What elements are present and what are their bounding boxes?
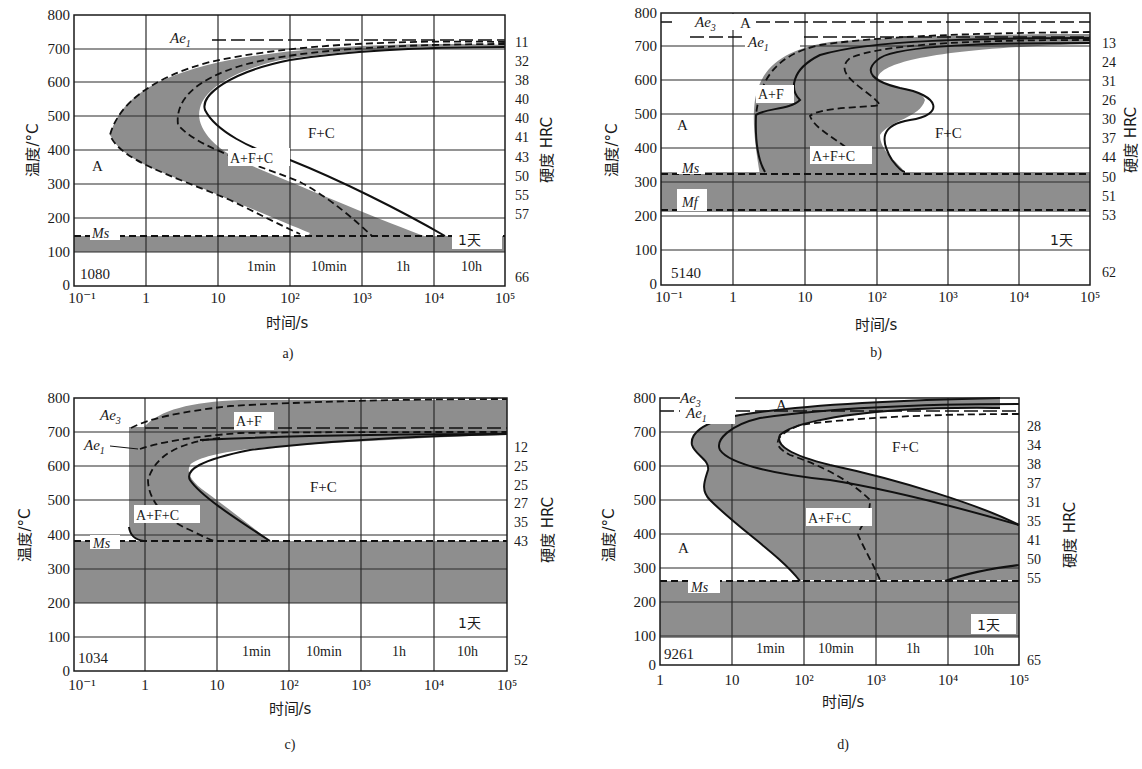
svg-text:43: 43 <box>514 534 528 549</box>
svg-text:35: 35 <box>514 515 528 530</box>
svg-text:100: 100 <box>48 244 71 260</box>
panel-b-caption: b) <box>870 345 882 361</box>
svg-text:1: 1 <box>729 289 737 305</box>
svg-text:600: 600 <box>48 458 71 474</box>
svg-text:10⁵: 10⁵ <box>497 677 517 693</box>
svg-text:10⁴: 10⁴ <box>424 290 444 306</box>
svg-text:10⁻¹: 10⁻¹ <box>655 289 682 305</box>
panel-b-right-label: 硬度 HRC <box>1122 107 1140 173</box>
panel-b-ms-label: Ms <box>681 161 700 176</box>
svg-text:11: 11 <box>515 35 528 50</box>
panel-a-ae1-label: Ae1 <box>169 30 191 49</box>
panel-a-right-label: 硬度 HRC <box>538 117 556 183</box>
svg-text:200: 200 <box>48 595 71 611</box>
svg-text:10min: 10min <box>306 644 342 659</box>
panel-c-steel-id: 1034 <box>78 650 109 666</box>
svg-text:1: 1 <box>656 672 664 688</box>
svg-text:10⁵: 10⁵ <box>495 290 515 306</box>
svg-text:40: 40 <box>515 92 529 107</box>
svg-text:1h: 1h <box>906 641 920 656</box>
svg-text:35: 35 <box>1027 514 1041 529</box>
svg-text:52: 52 <box>514 653 528 668</box>
svg-text:31: 31 <box>1027 495 1041 510</box>
svg-text:800: 800 <box>48 390 71 406</box>
svg-text:800: 800 <box>635 5 658 21</box>
panel-a-xlabel: 时间/s <box>266 314 309 332</box>
svg-text:53: 53 <box>1102 208 1116 223</box>
panel-a-hardness: 1132 3840 4041 4350 5557 66 <box>515 35 529 285</box>
panel-b-region-afc: A+F+C <box>812 149 855 164</box>
panel-a-caption: a) <box>283 346 294 362</box>
svg-text:13: 13 <box>1102 36 1116 51</box>
svg-text:10²: 10² <box>279 677 299 693</box>
svg-text:50: 50 <box>1102 170 1116 185</box>
panel-c-xlabel: 时间/s <box>269 700 312 718</box>
svg-text:28: 28 <box>1027 419 1041 434</box>
svg-text:800: 800 <box>48 7 71 23</box>
svg-text:1h: 1h <box>396 259 410 274</box>
svg-text:12: 12 <box>514 440 528 455</box>
svg-text:800: 800 <box>634 390 657 406</box>
panel-d-ms-label: Ms <box>690 580 709 595</box>
svg-text:400: 400 <box>48 527 71 543</box>
svg-text:600: 600 <box>635 72 658 88</box>
panel-c-ae1-label: Ae1 <box>83 437 105 456</box>
panel-b-xlabel: 时间/s <box>855 316 898 334</box>
svg-text:10²: 10² <box>867 289 887 305</box>
svg-text:10: 10 <box>725 672 740 688</box>
panel-b-region-af: A+F <box>758 87 784 102</box>
panel-d-region-fc: F+C <box>892 439 919 455</box>
svg-text:10⁴: 10⁴ <box>1009 289 1029 305</box>
figure-canvas: Ae1 Ms A A+F+C F+C 1天 1080 1min 10min 1h… <box>0 0 1142 769</box>
svg-text:50: 50 <box>1027 552 1041 567</box>
svg-text:37: 37 <box>1027 476 1041 491</box>
svg-text:0: 0 <box>649 657 657 673</box>
panel-c-region-af: A+F <box>236 414 262 429</box>
svg-text:500: 500 <box>634 492 657 508</box>
svg-text:100: 100 <box>634 628 657 644</box>
svg-text:700: 700 <box>635 38 658 54</box>
svg-text:1: 1 <box>141 677 149 693</box>
svg-text:55: 55 <box>1027 571 1041 586</box>
svg-text:41: 41 <box>515 130 529 145</box>
svg-text:51: 51 <box>1102 189 1116 204</box>
svg-text:1: 1 <box>142 290 150 306</box>
panel-d-hardness: 2834 3837 3135 4150 5565 <box>1027 419 1041 668</box>
panel-d-ylabel: 温度/°C <box>600 508 618 561</box>
panel-c-ylabel: 温度/°C <box>16 508 34 561</box>
panel-c: Ae3 Ae1 A+F A+F+C F+C Ms 1天 1034 1min 10… <box>16 390 557 753</box>
svg-text:100: 100 <box>635 242 658 258</box>
svg-text:10h: 10h <box>461 259 482 274</box>
panel-d-steel-id: 9261 <box>664 646 694 662</box>
svg-text:66: 66 <box>515 270 529 285</box>
svg-text:40: 40 <box>515 111 529 126</box>
svg-text:300: 300 <box>635 174 658 190</box>
svg-text:200: 200 <box>634 594 657 610</box>
svg-text:10⁵: 10⁵ <box>1009 672 1029 688</box>
svg-text:57: 57 <box>515 207 529 222</box>
svg-text:37: 37 <box>1102 131 1116 146</box>
svg-text:400: 400 <box>634 526 657 542</box>
panel-d: Ae3 Ae1 A F+C A+F+C A Ms 1天 9261 1min 10… <box>600 390 1079 753</box>
svg-text:700: 700 <box>48 424 71 440</box>
panel-c-ae3-label: Ae3 <box>99 407 121 426</box>
panel-a-region-afc: A+F+C <box>230 151 273 166</box>
panel-d-region-a: A <box>678 540 689 556</box>
svg-text:10³: 10³ <box>938 289 958 305</box>
panel-b-day-label: 1天 <box>1050 232 1073 248</box>
panel-a-yticks: 800700 600500 400300 200100 0 <box>48 7 71 293</box>
panel-b: Ae3 A Ae1 A+F A+F+C F+C A Ms Mf 1天 5140 … <box>603 5 1140 361</box>
panel-a: Ae1 Ms A A+F+C F+C 1天 1080 1min 10min 1h… <box>24 7 556 362</box>
svg-text:10min: 10min <box>311 259 347 274</box>
svg-text:32: 32 <box>515 54 529 69</box>
svg-text:300: 300 <box>48 176 71 192</box>
svg-text:10h: 10h <box>457 644 478 659</box>
svg-text:31: 31 <box>1102 74 1116 89</box>
panel-b-region-a-top: A <box>740 15 751 31</box>
svg-text:10⁻¹: 10⁻¹ <box>68 677 95 693</box>
panel-c-xticks: 10⁻¹1 1010² 10³10⁴ 10⁵ <box>68 677 517 693</box>
panel-a-steel-id: 1080 <box>80 266 110 282</box>
panel-a-ylabel: 温度/°C <box>24 123 42 176</box>
svg-text:44: 44 <box>1102 150 1116 165</box>
panel-a-day-label: 1天 <box>458 232 481 248</box>
